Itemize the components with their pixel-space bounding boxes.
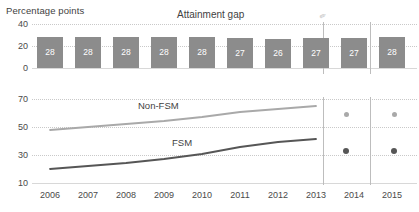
line-series-svg (0, 0, 419, 212)
chart-title: Attainment gap (177, 9, 244, 20)
bar-2011: 27 (227, 38, 253, 68)
x-tick-2010: 2010 (185, 190, 219, 200)
series-label-fsm: FSM (172, 137, 192, 148)
bar-label-2014: 27 (349, 49, 358, 58)
gridline-bottom-10 (32, 183, 417, 184)
y-tick-top-20: 20 (6, 41, 28, 51)
gridline-top-40 (32, 24, 417, 25)
gridline-bottom-70 (32, 99, 417, 100)
x-tick-2011: 2011 (223, 190, 257, 200)
gridline-bottom-50 (32, 127, 417, 128)
bar-label-2011: 27 (235, 49, 244, 58)
y-tick-bottom-30: 30 (6, 150, 28, 160)
gridline-top-0 (32, 68, 417, 69)
y-tick-top-0: 0 (6, 63, 28, 73)
bar-label-2009: 28 (159, 48, 168, 57)
bar-label-2013: 27 (311, 49, 320, 58)
dot-non-fsm-2014 (344, 112, 349, 117)
panel-separator-top-2015 (370, 22, 371, 74)
y-tick-bottom-50: 50 (6, 122, 28, 132)
bar-2006: 28 (37, 37, 63, 68)
dot-non-fsm-2015 (392, 112, 397, 117)
x-tick-2009: 2009 (147, 190, 181, 200)
y-tick-top-40: 40 (6, 19, 28, 29)
gridline-bottom-30 (32, 155, 417, 156)
bar-2013: 27 (303, 38, 329, 68)
bar-label-2007: 28 (83, 48, 92, 57)
bar-2010: 28 (189, 37, 215, 68)
bar-2008: 28 (113, 37, 139, 68)
bar-label-2010: 28 (197, 48, 206, 57)
bar-label-2015: 28 (387, 48, 396, 57)
panel-separator-bottom (323, 97, 324, 185)
bar-2012: 26 (265, 39, 291, 68)
dot-fsm-2014 (343, 148, 349, 154)
y-tick-bottom-10: 10 (6, 178, 28, 188)
bar-2007: 28 (75, 37, 101, 68)
x-tick-2014: 2014 (337, 190, 371, 200)
bar-label-2008: 28 (121, 48, 130, 57)
bar-2009: 28 (151, 37, 177, 68)
x-tick-2013: 2013 (299, 190, 333, 200)
bar-label-2012: 26 (273, 49, 282, 58)
attainment-gap-figure: Percentage points Attainment gap ✏ 40 20… (0, 0, 419, 212)
x-tick-2008: 2008 (109, 190, 143, 200)
y-axis-title-percentage-points: Percentage points (6, 5, 84, 16)
series-label-non-fsm: Non-FSM (138, 100, 179, 111)
pencil-mark-icon: ✏ (319, 12, 327, 21)
bar-2015: 28 (379, 37, 405, 68)
dot-fsm-2015 (391, 148, 397, 154)
x-tick-2012: 2012 (261, 190, 295, 200)
x-tick-2006: 2006 (33, 190, 67, 200)
y-tick-bottom-70: 70 (6, 94, 28, 104)
bar-2014: 27 (341, 38, 367, 68)
x-tick-2007: 2007 (71, 190, 105, 200)
panel-separator-bottom-2015 (370, 97, 371, 185)
bar-label-2006: 28 (45, 48, 54, 57)
x-tick-2015: 2015 (375, 190, 409, 200)
